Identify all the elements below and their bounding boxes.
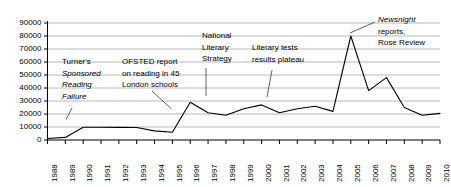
annotation-line: Literary	[202, 42, 232, 54]
x-axis-tick-label: 2000	[265, 164, 273, 182]
annotation-turners-sponsored-reading-failure: Turner'sSponsoredReadingFailure	[62, 56, 101, 102]
x-axis-tick-label: 1993	[140, 164, 148, 182]
x-axis-tick-label: 1992	[122, 164, 130, 182]
x-axis-tick-label: 1995	[176, 164, 184, 182]
annotation-line: Rose Review	[378, 37, 425, 49]
annotation-line: National	[202, 30, 232, 42]
x-axis-ticks	[48, 140, 441, 144]
y-axis-tick-label: 30000	[0, 97, 42, 105]
x-axis-tick-label: 1996	[193, 164, 201, 182]
x-axis-tick-label: 2005	[354, 164, 362, 182]
annotation-leader-line	[267, 70, 272, 97]
annotation-line: OFSTED report	[122, 56, 179, 68]
x-axis-tick-label: 2004	[336, 164, 344, 182]
annotation-leader-line	[350, 22, 375, 33]
data-series-line	[48, 36, 441, 138]
x-axis-tick-label: 1999	[247, 164, 255, 182]
annotation-line: Failure	[62, 91, 101, 103]
annotation-line: Sponsored	[62, 68, 101, 80]
y-axis-ticks	[44, 23, 48, 140]
x-axis-tick-label: 2009	[425, 164, 433, 182]
annotation-newsnight-reports-rose-review: Newsnightreports,Rose Review	[378, 14, 425, 49]
y-axis-tick-label: 80000	[0, 32, 42, 40]
annotation-line: results plateau	[252, 54, 304, 66]
y-axis-tick-label: 10000	[0, 123, 42, 131]
x-axis-tick-label: 2003	[318, 164, 326, 182]
x-axis-tick-label: 1991	[104, 164, 112, 182]
x-axis-tick-label: 2002	[300, 164, 308, 182]
annotation-line: Newsnight	[378, 14, 425, 26]
x-axis-tick-label: 2001	[283, 164, 291, 182]
annotation-ofsted-report: OFSTED reporton reading in 45London scho…	[122, 56, 179, 91]
y-axis-tick-label: 60000	[0, 58, 42, 66]
y-axis-tick-label: 50000	[0, 71, 42, 79]
annotation-line: reports,	[378, 26, 425, 38]
annotation-leader-line	[152, 91, 171, 109]
annotation-line: on reading in 45	[122, 68, 179, 80]
annotation-line: Strategy	[202, 53, 232, 65]
x-axis-tick-label: 1989	[69, 164, 77, 182]
x-axis-tick-label: 2010	[443, 164, 451, 182]
x-axis-tick-label: 1994	[158, 164, 166, 182]
x-axis-tick-label: 1997	[211, 164, 219, 182]
y-axis-tick-label: 20000	[0, 110, 42, 118]
annotation-line: Literary tests	[252, 42, 304, 54]
y-axis-tick-label: 90000	[0, 19, 42, 27]
annotation-line: Reading	[62, 79, 101, 91]
x-axis-tick-label: 2008	[408, 164, 416, 182]
x-axis-tick-label: 1988	[51, 164, 59, 182]
x-axis-tick-label: 1990	[86, 164, 94, 182]
y-axis-tick-label: 70000	[0, 45, 42, 53]
annotation-national-literacy-strategy: NationalLiteraryStrategy	[202, 30, 232, 65]
x-axis-tick-label: 2006	[372, 164, 380, 182]
x-axis-tick-label: 2007	[390, 164, 398, 182]
annotation-literary-tests-results-plateau: Literary testsresults plateau	[252, 42, 304, 65]
y-axis-tick-label: 0	[0, 136, 42, 144]
annotation-line: Turner's	[62, 56, 101, 68]
y-axis-tick-label: 40000	[0, 84, 42, 92]
annotation-line: London schools	[122, 79, 179, 91]
x-axis-tick-label: 1998	[229, 164, 237, 182]
